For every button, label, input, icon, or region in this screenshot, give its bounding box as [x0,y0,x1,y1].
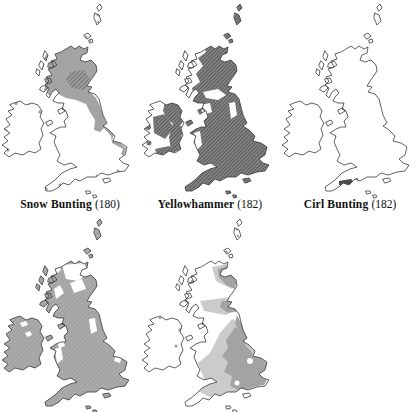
shading-bottom-left [0,215,140,412]
species-name: Snow Bunting [20,198,92,210]
map-caption: Snow Bunting(180) [0,198,140,210]
species-count: (182) [237,198,262,210]
species-count: (182) [371,198,396,210]
shading-bottom-center [159,228,268,398]
map-figure-bottom-center [140,215,280,412]
species-count: (180) [95,198,120,210]
map-caption: Cirl Bunting(182) [280,198,420,210]
map-caption: Yellowhammer(182) [140,198,280,210]
distribution-map-yellowhammer [140,0,280,202]
map-figure-cirl-bunting: Cirl Bunting(182) [280,0,420,215]
species-name: Yellowhammer [158,198,235,210]
species-name: Cirl Bunting [304,198,369,210]
map-figure-snow-bunting: Snow Bunting(180) [0,0,140,215]
shading-yellowhammer-gb [170,0,280,202]
map-figure-yellowhammer: Yellowhammer(182) [140,0,280,215]
distribution-map-bottom-left [0,215,140,412]
map-figure-bottom-left [0,215,140,412]
map-grid: Snow Bunting(180) [0,0,420,412]
distribution-map-bottom-center [140,215,280,412]
distribution-map-snow-bunting [0,0,140,202]
atlas-page: Snow Bunting(180) [0,0,420,412]
distribution-map-cirl-bunting [280,0,420,202]
